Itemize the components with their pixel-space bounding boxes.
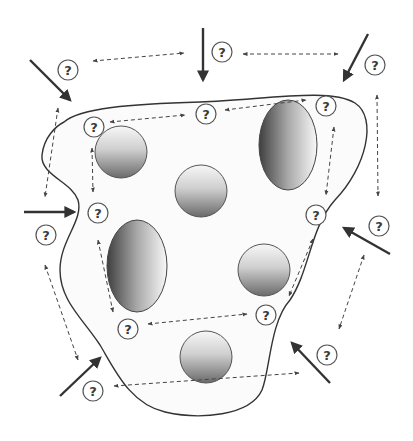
- question-mark-icon: ?: [36, 225, 56, 245]
- question-mark-icon: ?: [212, 42, 232, 62]
- ellipse-organelle: [259, 100, 317, 190]
- solid-arrow: [344, 34, 368, 80]
- question-mark-icon: ?: [83, 381, 103, 401]
- dashed-arrow: [93, 53, 184, 61]
- ellipse-organelle: [107, 220, 167, 312]
- question-mark-icon: ?: [118, 319, 138, 339]
- svg-text:?: ?: [323, 348, 331, 363]
- question-mark-icon: ?: [306, 205, 326, 225]
- svg-text:?: ?: [375, 219, 383, 234]
- sphere-organelle: [238, 244, 290, 296]
- question-mark-icon: ?: [256, 305, 276, 325]
- question-mark-icon: ?: [369, 216, 389, 236]
- cell-diagram: ??????????????: [0, 0, 413, 441]
- sphere-organelle: [180, 331, 232, 383]
- svg-text:?: ?: [64, 63, 72, 78]
- svg-text:?: ?: [322, 99, 330, 114]
- sphere-organelle: [95, 126, 147, 178]
- svg-text:?: ?: [90, 120, 98, 135]
- svg-text:?: ?: [124, 322, 132, 337]
- svg-text:?: ?: [262, 308, 270, 323]
- svg-text:?: ?: [42, 228, 50, 243]
- svg-text:?: ?: [371, 58, 379, 73]
- question-mark-icon: ?: [316, 96, 336, 116]
- dashed-arrow: [339, 255, 364, 329]
- sphere-organelle: [175, 165, 227, 217]
- question-mark-icon: ?: [58, 60, 78, 80]
- svg-text:?: ?: [94, 206, 102, 221]
- svg-text:?: ?: [218, 45, 226, 60]
- question-mark-icon: ?: [317, 345, 337, 365]
- svg-text:?: ?: [89, 384, 97, 399]
- question-mark-icon: ?: [88, 203, 108, 223]
- question-mark-icon: ?: [196, 104, 216, 124]
- svg-text:?: ?: [202, 107, 210, 122]
- question-mark-icon: ?: [365, 55, 385, 75]
- svg-text:?: ?: [312, 208, 320, 223]
- question-mark-icon: ?: [84, 117, 104, 137]
- dashed-arrow: [377, 95, 378, 196]
